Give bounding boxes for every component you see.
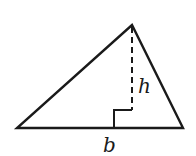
triangle: [17, 25, 183, 128]
height-label: h: [138, 74, 151, 98]
triangle-diagram: h b: [0, 0, 196, 156]
base-label: b: [103, 133, 116, 156]
right-angle-marker: [114, 110, 132, 128]
